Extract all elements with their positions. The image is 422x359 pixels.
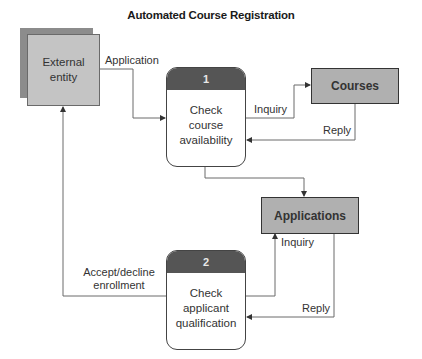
process-2: 2 Check applicant qualification [166, 250, 246, 350]
flow-label-reply-applications: Reply [302, 302, 330, 315]
external-entity: External entity [27, 34, 100, 106]
process-1-line2: course [179, 118, 232, 133]
flow-label-inquiry-courses: Inquiry [254, 103, 287, 116]
data-store-applications: Applications [261, 197, 359, 234]
external-entity-line1: External [42, 55, 84, 70]
flow-label-accept-decline: Accept/decline enrollment [74, 266, 164, 292]
process-2-line1: Check [176, 286, 237, 301]
process-2-line3: qualification [176, 316, 237, 331]
process-1-line3: availability [179, 133, 232, 148]
process-2-number: 2 [167, 251, 245, 273]
flow-inquiry-applications [246, 234, 275, 296]
flow-label-accept-decline-line1: Accept/decline [74, 266, 164, 279]
flow-label-application: Application [105, 54, 159, 67]
process-1: 1 Check course availability [166, 67, 246, 167]
flow-label-inquiry-applications: Inquiry [281, 236, 314, 249]
process-1-line1: Check [179, 103, 232, 118]
flow-label-accept-decline-line2: enrollment [74, 279, 164, 292]
flow-process1-applications [205, 167, 304, 196]
process-2-line2: applicant [176, 301, 237, 316]
data-store-courses: Courses [311, 68, 399, 104]
flow-application [100, 69, 165, 118]
external-entity-line2: entity [42, 70, 84, 85]
flow-label-reply-courses: Reply [323, 124, 351, 137]
process-1-number: 1 [167, 68, 245, 90]
